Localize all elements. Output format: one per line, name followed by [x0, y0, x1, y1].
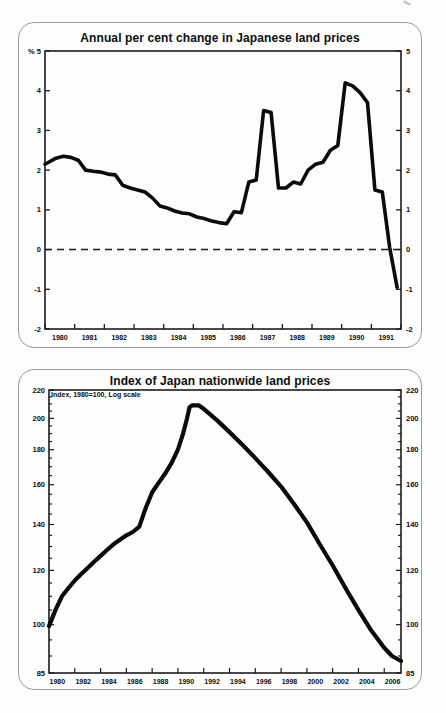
svg-text:0: 0 — [406, 245, 410, 254]
svg-text:1984: 1984 — [171, 334, 187, 341]
scanned-figure-page: { "page": { "corner_artifact": "partial-… — [0, 0, 446, 713]
page-corner-artifact — [403, 0, 411, 5]
svg-text:1981: 1981 — [82, 334, 98, 341]
land-price-index-line-chart: 8585100100120120140140160160180180200200… — [19, 370, 423, 688]
svg-text:1986: 1986 — [127, 678, 143, 685]
svg-text:180: 180 — [406, 445, 419, 454]
svg-text:2000: 2000 — [307, 678, 323, 685]
svg-text:1990: 1990 — [349, 334, 365, 341]
svg-text:180: 180 — [32, 445, 45, 454]
svg-text:2002: 2002 — [333, 678, 349, 685]
svg-text:1985: 1985 — [200, 334, 216, 341]
svg-text:1987: 1987 — [260, 334, 276, 341]
svg-text:85: 85 — [37, 669, 45, 678]
svg-text:140: 140 — [406, 520, 419, 529]
svg-text:1980: 1980 — [52, 334, 68, 341]
svg-text:4: 4 — [37, 86, 42, 95]
svg-text:220: 220 — [406, 386, 419, 395]
svg-text:220: 220 — [32, 386, 45, 395]
svg-text:1991: 1991 — [378, 334, 394, 341]
svg-text:4: 4 — [406, 86, 411, 95]
svg-text:1996: 1996 — [256, 678, 272, 685]
svg-text:2006: 2006 — [385, 678, 401, 685]
svg-text:1983: 1983 — [141, 334, 157, 341]
svg-text:1982: 1982 — [111, 334, 127, 341]
svg-text:% 5: % 5 — [28, 47, 41, 56]
svg-text:1994: 1994 — [230, 678, 246, 685]
bottom-chart-panel: Index of Japan nationwide land prices In… — [18, 369, 422, 690]
svg-text:1982: 1982 — [75, 678, 91, 685]
percent-change-line-chart: % 554433221100-1-1-2-2198019811982198319… — [19, 23, 423, 346]
svg-text:160: 160 — [406, 480, 419, 489]
svg-text:1986: 1986 — [230, 334, 246, 341]
svg-text:-2: -2 — [34, 325, 41, 334]
svg-text:100: 100 — [406, 620, 419, 629]
top-chart-panel: Annual per cent change in Japanese land … — [18, 22, 422, 348]
svg-text:2: 2 — [406, 166, 410, 175]
svg-text:1984: 1984 — [101, 678, 117, 685]
svg-text:1989: 1989 — [319, 334, 335, 341]
svg-text:1998: 1998 — [282, 678, 298, 685]
svg-text:1988: 1988 — [153, 678, 169, 685]
svg-text:1992: 1992 — [204, 678, 220, 685]
svg-text:3: 3 — [406, 126, 410, 135]
svg-text:5: 5 — [406, 47, 410, 56]
svg-text:200: 200 — [406, 414, 419, 423]
svg-text:0: 0 — [37, 245, 41, 254]
svg-text:1990: 1990 — [179, 678, 195, 685]
svg-text:1980: 1980 — [50, 678, 66, 685]
svg-text:1: 1 — [406, 205, 410, 214]
svg-text:85: 85 — [406, 669, 414, 678]
svg-text:200: 200 — [32, 414, 45, 423]
svg-text:140: 140 — [32, 520, 45, 529]
svg-text:-1: -1 — [406, 285, 413, 294]
svg-text:120: 120 — [406, 566, 419, 575]
svg-text:3: 3 — [37, 126, 41, 135]
svg-text:2004: 2004 — [359, 678, 375, 685]
svg-text:120: 120 — [32, 566, 45, 575]
svg-text:1988: 1988 — [289, 334, 305, 341]
svg-text:-1: -1 — [34, 285, 41, 294]
svg-text:100: 100 — [32, 620, 45, 629]
svg-text:-2: -2 — [406, 325, 413, 334]
svg-text:1: 1 — [37, 205, 41, 214]
svg-text:2: 2 — [37, 166, 41, 175]
svg-text:160: 160 — [32, 480, 45, 489]
